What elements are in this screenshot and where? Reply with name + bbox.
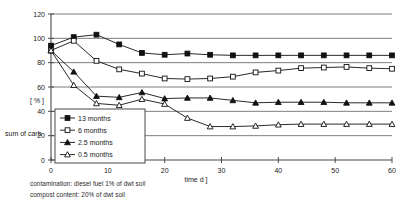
data-point <box>162 52 167 57</box>
x-tick-label: 10 <box>104 167 112 174</box>
data-point <box>299 66 304 71</box>
caption-compost: compost content: 20% of dwt soil <box>30 191 125 198</box>
data-point <box>367 66 372 71</box>
legend-label-3: 0.5 months <box>78 151 113 158</box>
legend-label-0: 13 months <box>78 115 111 122</box>
data-point <box>71 38 76 43</box>
x-tick-label: 60 <box>388 167 396 174</box>
y-tick-label: 60 <box>37 84 45 91</box>
data-point <box>117 42 122 47</box>
data-point <box>276 53 281 58</box>
x-tick-label: 30 <box>218 167 226 174</box>
y-tick-label: 120 <box>33 11 45 18</box>
data-point <box>94 58 99 63</box>
data-point <box>94 32 99 37</box>
legend-label-1: 6 months <box>78 127 107 134</box>
legend-label-2: 2.5 months <box>78 139 113 146</box>
caption-contamination: contamination: diesel fuel 1% of dwt soi… <box>30 180 145 187</box>
x-axis-label: time d ] <box>185 176 208 184</box>
x-tick-label: 20 <box>161 167 169 174</box>
y-axis-secondary-label: sum of carb <box>5 130 42 137</box>
data-point <box>253 70 258 75</box>
data-point <box>367 53 372 58</box>
data-point <box>230 74 235 79</box>
data-point <box>276 68 281 73</box>
data-point <box>65 128 70 133</box>
data-point <box>344 65 349 70</box>
x-tick-label: 0 <box>49 167 53 174</box>
x-tick-label: 50 <box>331 167 339 174</box>
data-point <box>117 67 122 72</box>
chart-figure: 0102030405060 020406080100120 [ % ] sum … <box>0 0 401 214</box>
data-point <box>344 53 349 58</box>
data-point <box>140 71 145 76</box>
data-point <box>185 51 190 56</box>
data-point <box>65 116 70 121</box>
y-tick-label: 0 <box>41 157 45 164</box>
data-point <box>321 65 326 70</box>
data-point <box>253 53 258 58</box>
y-tick-label: 80 <box>37 59 45 66</box>
data-point <box>299 53 304 58</box>
data-point <box>230 53 235 58</box>
data-point <box>140 51 145 56</box>
x-tick-label: 40 <box>274 167 282 174</box>
data-point <box>390 53 395 58</box>
data-point <box>390 66 395 71</box>
data-point <box>162 76 167 81</box>
y-axis-label: [ % ] <box>30 97 44 105</box>
legend: 13 months6 months2.5 months0.5 months <box>55 109 145 163</box>
data-point <box>208 76 213 81</box>
y-tick-label: 100 <box>33 35 45 42</box>
y-tick-label: 40 <box>37 108 45 115</box>
data-point <box>321 53 326 58</box>
data-point <box>208 52 213 57</box>
data-point <box>185 77 190 82</box>
